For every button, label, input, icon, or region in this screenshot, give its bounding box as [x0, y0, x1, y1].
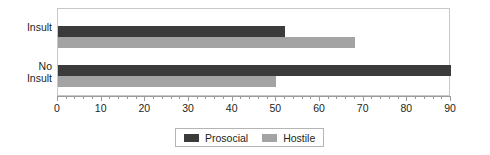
plot-area	[57, 8, 450, 96]
x-tick-30	[188, 96, 189, 101]
x-tick-46	[258, 96, 259, 99]
bar-insult-hostile	[58, 37, 355, 48]
x-tick-20	[144, 96, 145, 101]
legend-entry-hostile: Hostile	[262, 132, 315, 144]
x-tick-90	[450, 96, 451, 101]
x-tick-86	[433, 96, 434, 99]
x-tick-40	[232, 96, 233, 101]
x-tick-80	[406, 96, 407, 101]
x-tick-76	[389, 96, 390, 99]
x-tick-16	[127, 96, 128, 99]
y-axis-label-no-insult: No Insult	[0, 60, 52, 84]
legend-label-prosocial: Prosocial	[205, 132, 248, 144]
x-tick-4	[74, 96, 75, 99]
x-tick-58	[310, 96, 311, 99]
x-tick-68	[354, 96, 355, 99]
x-tick-36	[214, 96, 215, 99]
x-tick-78	[398, 96, 399, 99]
x-tick-14	[118, 96, 119, 99]
x-tick-label-70: 70	[343, 102, 383, 114]
x-axis-line	[57, 96, 450, 97]
x-tick-42	[240, 96, 241, 99]
x-tick-64	[336, 96, 337, 99]
x-tick-28	[179, 96, 180, 99]
x-tick-0	[57, 96, 58, 101]
x-tick-88	[441, 96, 442, 99]
x-tick-32	[197, 96, 198, 99]
x-tick-18	[136, 96, 137, 99]
x-tick-60	[319, 96, 320, 101]
legend-label-hostile: Hostile	[283, 132, 315, 144]
x-tick-84	[424, 96, 425, 99]
x-tick-6	[83, 96, 84, 99]
bar-insult-prosocial	[58, 26, 285, 37]
y-axis-label-insult: Insult	[0, 21, 52, 33]
chart-legend: Prosocial Hostile	[175, 128, 324, 147]
bar-no-insult-prosocial	[58, 65, 451, 76]
legend-swatch-hostile	[262, 134, 277, 142]
x-tick-82	[415, 96, 416, 99]
x-tick-label-20: 20	[124, 102, 164, 114]
x-tick-label-10: 10	[81, 102, 121, 114]
x-tick-62	[328, 96, 329, 99]
x-tick-8	[92, 96, 93, 99]
x-tick-56	[302, 96, 303, 99]
legend-swatch-prosocial	[184, 134, 199, 142]
x-tick-34	[205, 96, 206, 99]
x-tick-50	[275, 96, 276, 101]
x-tick-label-80: 80	[386, 102, 426, 114]
x-tick-label-90: 90	[430, 102, 470, 114]
x-tick-12	[109, 96, 110, 99]
x-tick-70	[363, 96, 364, 101]
bar-no-insult-hostile	[58, 76, 276, 87]
x-tick-38	[223, 96, 224, 99]
x-tick-72	[371, 96, 372, 99]
x-tick-74	[380, 96, 381, 99]
x-tick-label-40: 40	[212, 102, 252, 114]
x-tick-label-0: 0	[37, 102, 77, 114]
x-tick-2	[66, 96, 67, 99]
x-tick-54	[293, 96, 294, 99]
bar-chart-figure: Insult No Insult 0102030405060708090 Pro…	[0, 0, 490, 155]
x-tick-66	[345, 96, 346, 99]
x-tick-label-30: 30	[168, 102, 208, 114]
x-tick-24	[162, 96, 163, 99]
legend-entry-prosocial: Prosocial	[184, 132, 248, 144]
x-tick-label-60: 60	[299, 102, 339, 114]
x-tick-22	[153, 96, 154, 99]
x-tick-26	[171, 96, 172, 99]
x-tick-label-50: 50	[255, 102, 295, 114]
x-tick-10	[101, 96, 102, 101]
x-tick-48	[267, 96, 268, 99]
x-tick-44	[249, 96, 250, 99]
x-tick-52	[284, 96, 285, 99]
